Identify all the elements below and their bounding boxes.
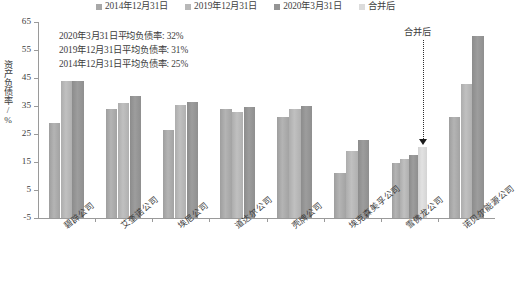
- bar-3-2: [244, 107, 255, 218]
- bar-3-1: [232, 112, 243, 218]
- x-tick: [438, 218, 439, 222]
- y-tick-label: 55: [22, 45, 31, 54]
- x-tick: [95, 218, 96, 222]
- y-tick-label: 15: [22, 157, 31, 166]
- legend-label: 2020年3月31日: [283, 1, 342, 12]
- bar-4-0: [277, 117, 288, 218]
- y-tick-label: 5: [26, 185, 31, 194]
- legend-item-1[interactable]: 2019年12月31日: [185, 1, 257, 12]
- bar-6-2: [409, 155, 417, 218]
- y-tick: [34, 106, 38, 107]
- y-axis-title: 资产负债率/%: [1, 60, 13, 125]
- x-tick: [381, 218, 382, 222]
- bar-0-2: [72, 81, 83, 218]
- legend-item-0[interactable]: 2014年12月31日: [96, 1, 168, 12]
- bar-7-1: [461, 84, 472, 218]
- callout-arrow-icon: [419, 139, 427, 145]
- bar-7-2: [472, 36, 483, 218]
- bar-2-0: [163, 130, 174, 218]
- x-tick: [267, 218, 268, 222]
- plot-area: -55152535455565 合并后: [38, 22, 495, 218]
- bar-2-1: [175, 105, 186, 218]
- y-tick: [34, 78, 38, 79]
- legend-label: 2014年12月31日: [105, 1, 168, 12]
- bar-5-1: [346, 151, 357, 218]
- y-tick: [34, 22, 38, 23]
- y-tick-label: 35: [22, 101, 31, 110]
- legend-label: 2019年12月31日: [194, 1, 257, 12]
- x-tick: [152, 218, 153, 222]
- bar-6-1: [400, 159, 408, 218]
- y-tick: [34, 218, 38, 219]
- legend-item-2[interactable]: 2020年3月31日: [274, 1, 342, 12]
- x-tick: [324, 218, 325, 222]
- callout-label: 合并后: [404, 27, 431, 37]
- bar-1-0: [106, 109, 117, 218]
- y-tick: [34, 190, 38, 191]
- y-axis-line: [38, 22, 39, 218]
- y-tick: [34, 162, 38, 163]
- legend-swatch-icon: [274, 4, 280, 10]
- x-tick: [209, 218, 210, 222]
- bar-4-2: [301, 106, 312, 218]
- bar-4-1: [289, 109, 300, 218]
- y-tick-label: 65: [22, 17, 31, 26]
- y-tick-label: 45: [22, 73, 31, 82]
- legend-swatch-icon: [96, 4, 102, 10]
- callout-stem: [423, 40, 424, 139]
- chart-legend: 2014年12月31日2019年12月31日2020年3月31日合并后: [96, 1, 394, 12]
- legend-swatch-icon: [359, 4, 365, 10]
- bar-2-2: [187, 102, 198, 218]
- y-tick: [34, 50, 38, 51]
- y-tick-label: -5: [23, 213, 31, 222]
- bar-7-0: [449, 117, 460, 218]
- legend-label: 合并后: [368, 1, 395, 12]
- bar-3-0: [220, 109, 231, 218]
- y-tick: [34, 134, 38, 135]
- legend-item-3[interactable]: 合并后: [359, 1, 395, 12]
- bar-5-0: [334, 173, 345, 218]
- bar-1-1: [118, 103, 129, 218]
- bar-1-2: [130, 96, 141, 218]
- y-tick-label: 25: [22, 129, 31, 138]
- bar-0-0: [49, 123, 60, 218]
- legend-swatch-icon: [185, 4, 191, 10]
- bar-0-1: [61, 81, 72, 218]
